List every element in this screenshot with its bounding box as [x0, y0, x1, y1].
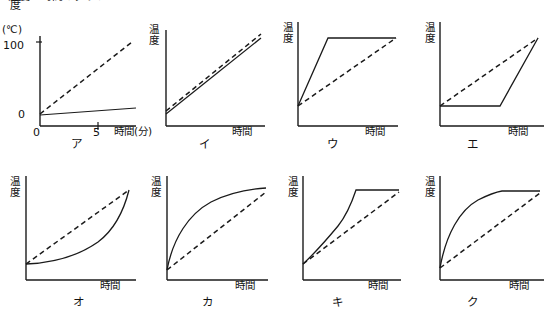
x-axis-label-c: 時間 — [365, 126, 385, 137]
series-dashed-d — [440, 38, 538, 106]
series-solid-b — [166, 38, 261, 114]
y-axis-label-e: 温度 — [8, 176, 21, 198]
series-solid-a — [40, 108, 136, 115]
y-axis-label-f: 温度 — [149, 176, 162, 198]
series-dashed-b — [166, 34, 261, 111]
graph-panel-a: (℃) 100 0 0 5 時間(分) — [0, 14, 136, 134]
graph-panel-h: 温度 時間 — [404, 172, 544, 294]
x-axis-label-d: 時間 — [508, 126, 528, 137]
x-tick-label-5-a: 5 — [93, 127, 100, 138]
panel-kana-f: カ — [195, 296, 219, 308]
x-axis-label-b: 時間 — [232, 126, 252, 137]
graph-panel-e: 温度 時間 — [0, 172, 136, 294]
panel-kana-g: キ — [325, 296, 349, 308]
x-axis-label-e: 時間 — [100, 280, 120, 291]
panel-kana-c: ウ — [320, 138, 344, 150]
graph-panel-c: 温度 時間 — [268, 14, 398, 134]
x-tick-label-0-a: 0 — [33, 127, 40, 138]
graph-panel-d: 温度 時間 — [404, 14, 544, 134]
panel-kana-e: オ — [66, 296, 90, 308]
graph-panel-f: 温度 時間 — [135, 172, 268, 294]
clipped-title-text: 温度と時間のグラフ — [8, 0, 107, 2]
x-axis-label-f: 時間 — [235, 280, 255, 291]
panel-kana-d: エ — [460, 138, 484, 150]
clipped-title-partial-char: 度 — [10, 0, 21, 11]
y-axis-label-d: 温度 — [423, 22, 436, 44]
series-dashed-a — [40, 42, 132, 114]
y-axis-label-h: 温度 — [423, 176, 436, 198]
y-axis-label-b: 温度 — [147, 24, 160, 46]
panel-kana-h: ク — [460, 296, 484, 308]
y-tick-label-0-a: 0 — [18, 109, 25, 120]
graph-panel-g: 温度 時間 — [268, 172, 401, 294]
series-dashed-h — [440, 193, 540, 268]
x-axis-label-h: 時間 — [509, 280, 529, 291]
worksheet-figure: 温度と時間のグラフ 度 (℃) 100 0 0 5 時間(分) ア 温度 時間 … — [0, 0, 544, 323]
x-axis-label-g: 時間 — [368, 280, 388, 291]
panel-kana-a: ア — [64, 138, 88, 150]
graph-panel-b: 温度 時間 — [135, 14, 265, 134]
y-tick-label-100-a: 100 — [3, 40, 24, 51]
y-axis-label-c: 温度 — [281, 22, 294, 44]
panel-kana-b: イ — [192, 138, 216, 150]
y-axis-label-g: 温度 — [286, 176, 299, 198]
y-axis-unit-a: (℃) — [2, 24, 22, 35]
